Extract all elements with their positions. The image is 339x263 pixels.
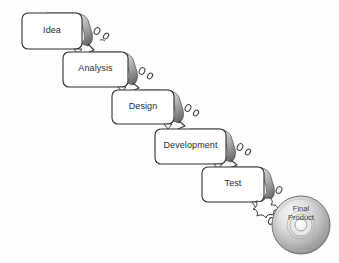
splash-droplet — [244, 148, 251, 156]
splash-droplet — [138, 67, 146, 76]
splash-fleck — [100, 40, 105, 41]
waterfall-diagram: Idea Analysis Design Development Test Fi… — [0, 0, 339, 263]
splash-droplet — [102, 32, 109, 40]
splash-droplet — [192, 109, 199, 117]
drip-tail-design — [164, 124, 172, 129]
waterfall-diagram-canvas — [0, 0, 339, 263]
stage-box-idea — [22, 13, 82, 49]
splash-droplet — [146, 72, 153, 80]
stage-group-test — [202, 167, 283, 225]
stage-box-test — [202, 167, 264, 202]
splash-droplet — [275, 186, 283, 195]
stage-box-analysis — [63, 52, 128, 87]
disc-center-hole — [295, 219, 307, 231]
stage-box-development — [155, 129, 226, 164]
splash-droplet — [184, 104, 192, 113]
final-product-disc — [272, 196, 330, 254]
splash-droplet — [93, 27, 101, 36]
splash-droplet — [236, 143, 244, 152]
stage-box-design — [112, 90, 174, 124]
